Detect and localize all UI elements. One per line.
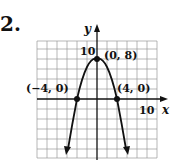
left-arrow-icon	[64, 146, 71, 155]
label-4-0: (4, 0)	[117, 82, 150, 95]
x-tick-10: 10	[139, 104, 155, 117]
point-0-8	[94, 56, 100, 62]
y-axis-label: y	[83, 22, 92, 36]
point-4-0	[114, 96, 120, 102]
x-axis-label: x	[161, 103, 170, 117]
right-arrow-icon	[123, 146, 130, 155]
y-axis-arrow-icon	[94, 24, 100, 32]
y-tick-10: 10	[80, 45, 96, 58]
label-neg4-0: (−4, 0)	[26, 82, 69, 95]
parabola-chart: x y 10 10 (−4, 0) (0, 8) (4, 0)	[0, 0, 174, 165]
label-0-8: (0, 8)	[104, 49, 137, 62]
point-neg4-0	[74, 96, 80, 102]
x-axis-arrow-icon	[160, 96, 168, 102]
